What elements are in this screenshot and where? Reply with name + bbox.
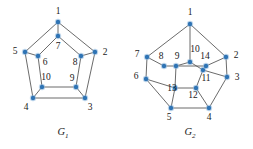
vertex-dot <box>36 54 40 58</box>
vertex-dot <box>224 55 228 59</box>
vertex-label-1: 1 <box>56 6 61 16</box>
vertex-dot <box>79 54 83 58</box>
vertex-dot <box>93 50 97 54</box>
vertex-dot <box>188 22 192 26</box>
graph-figure: 12345678910G11234567891011121314G2 <box>0 0 253 149</box>
vertex-12: 12 <box>188 85 199 100</box>
vertex-label-10: 10 <box>190 44 200 54</box>
vertex-label-12: 12 <box>188 90 198 100</box>
vertex-label-9: 9 <box>175 51 180 61</box>
vertex-dot <box>56 20 60 24</box>
vertex-dot <box>207 106 211 110</box>
graph-edge <box>146 57 147 79</box>
vertex-label-4: 4 <box>207 112 212 122</box>
vertex-13: 13 <box>167 83 178 93</box>
vertex-2: 2 <box>223 50 239 60</box>
graph-edge <box>209 77 227 108</box>
vertex-dot <box>225 75 229 79</box>
vertex-6: 6 <box>134 71 150 82</box>
vertex-dot <box>56 34 60 38</box>
graph-edge <box>58 22 95 52</box>
vertex-dot <box>162 64 166 68</box>
graph-caption-g2: G2 <box>184 126 196 140</box>
vertex-3: 3 <box>82 95 93 112</box>
graph-edge <box>25 22 58 52</box>
graph-edge <box>196 88 209 108</box>
vertex-dot <box>204 64 208 68</box>
vertex-label-7: 7 <box>135 49 140 59</box>
graph-edge <box>85 52 95 98</box>
vertex-8: 8 <box>73 53 85 67</box>
vertex-dot <box>145 55 149 59</box>
graph-caption-g1: G1 <box>57 126 68 140</box>
vertex-5: 5 <box>167 105 175 122</box>
vertex-dot <box>144 77 148 81</box>
vertex-8: 8 <box>159 51 168 69</box>
vertex-label-7: 7 <box>56 41 61 51</box>
vertex-dot <box>188 60 192 64</box>
vertex-label-2: 2 <box>103 47 108 57</box>
vertex-dot <box>23 50 27 54</box>
vertex-9: 9 <box>173 51 180 69</box>
caption-subscript: 2 <box>192 132 196 140</box>
vertex-dot <box>174 64 178 68</box>
vertex-label-11: 11 <box>201 73 210 83</box>
vertex-3: 3 <box>224 72 240 82</box>
vertex-label-8: 8 <box>73 57 78 67</box>
edge-group <box>146 24 227 108</box>
caption-subscript: 1 <box>65 132 69 140</box>
vertex-10: 10 <box>39 72 51 90</box>
vertex-4: 4 <box>206 105 212 122</box>
vertex-11: 11 <box>200 67 211 83</box>
vertex-label-3: 3 <box>235 72 240 82</box>
vertex-dot <box>74 85 78 89</box>
graph-canvas: 12345678910G11234567891011121314G2 <box>0 0 253 149</box>
vertex-dot <box>83 96 87 100</box>
vertex-14: 14 <box>200 51 210 69</box>
vertex-label-6: 6 <box>134 71 139 81</box>
vertex-6: 6 <box>35 53 48 67</box>
graph-g2: 1234567891011121314G2 <box>134 7 240 139</box>
vertex-1: 1 <box>187 7 193 27</box>
vertex-4: 4 <box>24 95 37 112</box>
vertex-label-1: 1 <box>188 7 193 17</box>
graph-edge <box>147 24 190 57</box>
vertex-5: 5 <box>13 46 29 56</box>
graph-edge <box>58 36 81 56</box>
vertex-dot <box>31 96 35 100</box>
vertex-7: 7 <box>135 49 151 60</box>
vertex-7: 7 <box>55 33 61 51</box>
vertex-label-3: 3 <box>88 102 93 112</box>
vertex-label-6: 6 <box>43 57 48 67</box>
vertex-label-4: 4 <box>24 102 29 112</box>
vertex-label-2: 2 <box>234 50 239 60</box>
vertex-dot <box>40 85 44 89</box>
vertex-group: 1234567891011121314 <box>134 7 240 122</box>
vertex-label-5: 5 <box>13 46 18 56</box>
vertex-label-13: 13 <box>167 83 177 93</box>
vertex-label-10: 10 <box>41 72 51 82</box>
vertex-label-14: 14 <box>200 51 210 61</box>
vertex-1: 1 <box>55 6 61 25</box>
edge-group <box>25 22 95 98</box>
vertex-label-9: 9 <box>70 73 75 83</box>
graph-edge <box>25 52 33 98</box>
vertex-label-5: 5 <box>167 112 172 122</box>
vertex-label-8: 8 <box>159 51 164 61</box>
vertex-10: 10 <box>187 44 200 65</box>
vertex-dot <box>169 106 173 110</box>
graph-g1: 12345678910G1 <box>13 6 108 139</box>
